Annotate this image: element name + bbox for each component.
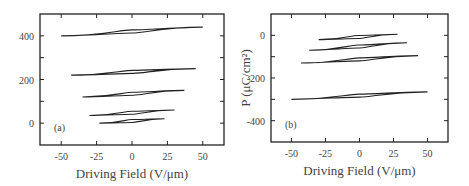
panel-b: -50-25025500-200-400Driving Field (V/μm)… [238,14,448,178]
x-tick-label: 50 [198,151,208,162]
x-tick-label: 25 [389,148,399,159]
hysteresis-loop [319,34,398,39]
hysteresis-loop [99,119,164,123]
figure: -50-25025500200400Driving Field (V/μm)(a… [0,0,469,186]
x-tick-label: 50 [423,148,433,159]
x-axis-title: Driving Field (V/μm) [76,166,188,181]
y-tick-label: 200 [19,75,34,86]
y-tick-label: 400 [19,31,34,42]
x-tick-label: -50 [285,148,298,159]
panel-a: -50-25025500200400Driving Field (V/μm)(a… [19,14,224,181]
x-tick-label: -50 [55,151,68,162]
y-tick-label: 0 [29,118,34,129]
hysteresis-loop [309,43,407,50]
x-axis-title: Driving Field (V/μm) [303,163,415,178]
plot-frame [40,14,224,145]
x-tick-label: 0 [357,148,362,159]
panel-label: (b) [285,119,297,131]
hysteresis-loop [71,69,196,76]
y-tick-label: -400 [247,116,265,127]
hysteresis-loop [90,110,175,115]
hysteresis-loop [82,90,184,97]
panel-label: (a) [54,122,65,134]
x-tick-label: -25 [90,151,103,162]
plot-frame [271,14,448,142]
x-tick-label: 0 [130,151,135,162]
y-axis-title: P (μC/cm²) [238,49,253,107]
x-tick-label: 25 [162,151,172,162]
hysteresis-loop [291,92,427,99]
y-tick-label: 0 [260,30,265,41]
hysteresis-loop [301,56,418,63]
x-tick-label: -25 [319,148,332,159]
hysteresis-loop [61,27,203,36]
